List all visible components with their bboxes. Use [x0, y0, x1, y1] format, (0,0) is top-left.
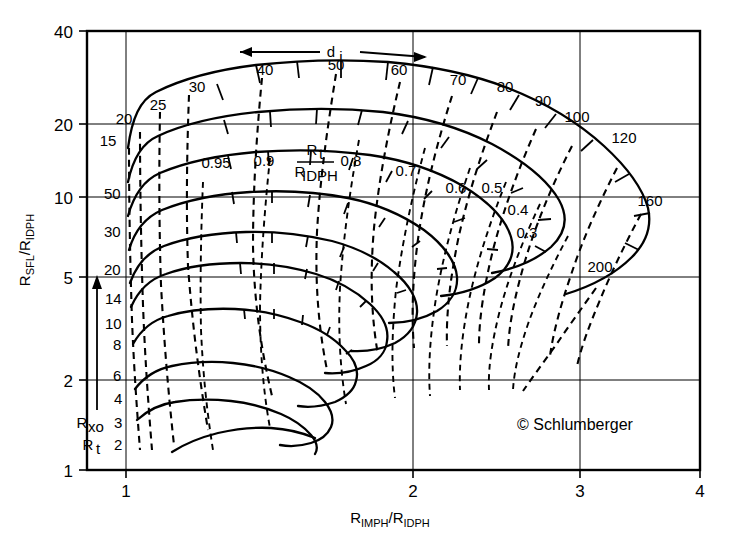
rt-ridph-label: 0.8 [341, 152, 362, 169]
di-label: 100 [564, 108, 589, 125]
x-axis-title-r1: R [350, 509, 361, 526]
rxo-rt-label: 20 [104, 261, 121, 278]
y-tick-label: 2 [64, 372, 73, 391]
rt-ridph-label: 0.3 [517, 224, 538, 241]
di-label: 200 [587, 258, 612, 275]
copyright-notice: © Schlumberger [517, 416, 634, 433]
di-label: 160 [637, 192, 662, 209]
y-tick-label: 20 [54, 116, 73, 135]
rt-ridph-label: 0.7 [396, 162, 417, 179]
di-label: 40 [257, 61, 274, 78]
rt-ridph-label: 0.95 [201, 154, 230, 171]
rxo-rt-label: 2 [114, 436, 122, 453]
y-axis-title-sub1: SFL [24, 255, 36, 275]
di-label: 60 [391, 61, 408, 78]
x-tick-label: 3 [575, 482, 584, 501]
rxo-rt-label: 10 [105, 315, 122, 332]
di-label: 25 [150, 96, 167, 113]
di-label: 120 [611, 129, 636, 146]
x-axis-title-sub2: IDPH [404, 517, 430, 529]
tornado-chart-svg: 1 2 3 4 40 20 10 5 2 1 15 20 25 30 40 50… [0, 0, 731, 544]
rxo-rt-label: 3 [114, 414, 122, 431]
rxo-annotation-base: R [77, 414, 88, 431]
rxo-rt-label: 8 [113, 336, 121, 353]
y-axis-title-r1: R [16, 275, 33, 286]
rt-ridph-label: 0.4 [508, 201, 529, 218]
x-axis-title-r2: R [393, 509, 404, 526]
y-axis-title-r2: R [16, 240, 33, 251]
rxo-rt-label: 30 [104, 223, 121, 240]
di-label: 15 [100, 132, 117, 149]
di-label: 30 [189, 78, 206, 95]
rt-ridph-label: 0.9 [254, 152, 275, 169]
rt-ridph-label: 0.5 [482, 179, 503, 196]
di-label: 80 [497, 78, 514, 95]
rt-fraction-numerator: R [307, 141, 318, 158]
rt-annotation-base: R [83, 436, 94, 453]
x-tick-label: 2 [408, 482, 417, 501]
di-annotation-base: d [327, 43, 335, 60]
rt-ridph-label: 0.6 [446, 179, 467, 196]
y-tick-label: 10 [54, 189, 73, 208]
y-tick-label: 5 [64, 269, 73, 288]
rt-fraction-denominator-sub: IDPH [302, 167, 338, 184]
di-label: 70 [450, 71, 467, 88]
di-label: 90 [535, 92, 552, 109]
rxo-annotation-sub: xo [88, 418, 104, 435]
rxo-rt-label: 4 [114, 390, 122, 407]
y-tick-label: 40 [54, 23, 73, 42]
x-tick-label: 1 [121, 482, 130, 501]
x-tick-label: 4 [695, 482, 704, 501]
di-annotation-sub: i [339, 48, 342, 65]
rxo-rt-label: 6 [113, 367, 121, 384]
x-axis-title-sub1: IMPH [361, 517, 389, 529]
rxo-rt-label: 14 [105, 290, 122, 307]
chart-figure: 1 2 3 4 40 20 10 5 2 1 15 20 25 30 40 50… [0, 0, 731, 544]
y-axis-title-sub2: IDPH [24, 214, 36, 240]
rxo-rt-label: 50 [104, 185, 121, 202]
di-label: 20 [116, 110, 133, 127]
y-tick-label: 1 [64, 462, 73, 481]
